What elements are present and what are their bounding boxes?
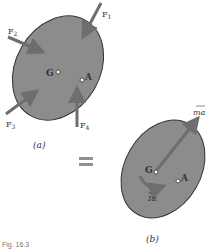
label-f3: F3 <box>6 120 16 130</box>
label-a-a: A <box>84 72 93 82</box>
rigid-body-diagram: G A F1 F2 F3 F4 (a) G A ma Iα <box>0 0 212 249</box>
label-ma: ma <box>193 108 206 117</box>
label-f2: F2 <box>8 27 18 37</box>
equals-sign <box>79 157 93 166</box>
point-g-b <box>154 170 158 174</box>
label-g-a: G <box>46 68 54 78</box>
label-a-b: A <box>180 173 189 183</box>
rigid-body-a <box>0 0 122 137</box>
panel-b: G A ma Iα (b) <box>104 105 212 244</box>
point-g-a <box>56 70 60 74</box>
point-a-b <box>176 179 180 183</box>
panel-b-label: (b) <box>146 234 159 244</box>
figure-caption: Fig. 16.3 <box>2 241 29 248</box>
label-f4: F4 <box>80 121 90 131</box>
label-g-b: G <box>145 165 153 175</box>
point-a-a <box>80 78 84 82</box>
panel-a-label: (a) <box>33 140 46 150</box>
panel-a: G A F1 F2 F3 F4 (a) <box>0 0 122 150</box>
label-f1: F1 <box>102 10 111 20</box>
label-i-alpha: Iα <box>147 194 157 203</box>
